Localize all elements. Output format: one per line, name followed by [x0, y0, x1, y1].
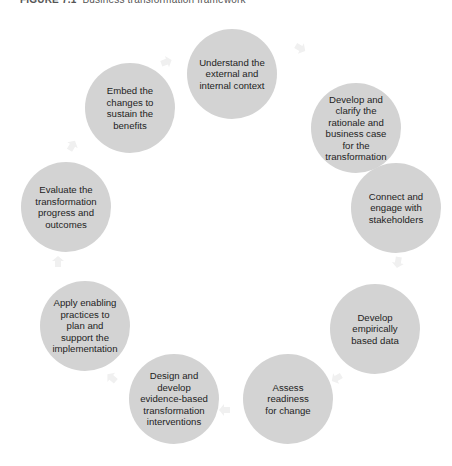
node-label: Embed the changes to sustain the benefit…: [107, 85, 154, 131]
node-label: Evaluate the transformation progress and…: [35, 184, 96, 230]
node-label: Connect and engage with stakeholders: [369, 191, 423, 226]
cycle-arrow-icon: [102, 368, 122, 388]
node-label: Assess readiness for change: [265, 382, 310, 417]
figure-number: FIGURE 7.1: [20, 0, 76, 5]
node-label: Design and develop evidence-based transf…: [140, 370, 208, 428]
figure-title: FIGURE 7.1Business transformation framew…: [20, 0, 246, 5]
cycle-arrow-icon: [157, 53, 175, 71]
node-develop-data: Develop empirically based data: [330, 284, 420, 374]
node-label: Develop and clarify the rationale and bu…: [325, 94, 386, 163]
node-label: Develop empirically based data: [351, 312, 398, 347]
node-embed-changes: Embed the changes to sustain the benefit…: [85, 63, 175, 153]
node-evaluate-progress: Evaluate the transformation progress and…: [21, 162, 111, 252]
node-develop-rationale: Develop and clarify the rationale and bu…: [311, 83, 401, 173]
cycle-arrow-icon: [390, 254, 406, 270]
node-assess-readiness: Assess readiness for change: [243, 354, 333, 444]
node-understand-context: Understand the external and internal con…: [187, 29, 277, 119]
cycle-arrow-icon: [290, 38, 309, 57]
cycle-arrow-icon: [62, 136, 81, 155]
node-apply-practices: Apply enabling practices to plan and sup…: [40, 281, 130, 371]
cycle-arrow-icon: [51, 255, 65, 269]
cycle-arrow-icon: [218, 403, 232, 417]
node-label: Understand the external and internal con…: [199, 57, 265, 92]
node-label: Apply enabling practices to plan and sup…: [52, 297, 117, 355]
node-connect-stakeholders: Connect and engage with stakeholders: [351, 163, 441, 253]
node-design-interventions: Design and develop evidence-based transf…: [129, 354, 219, 444]
figure-caption: Business transformation framework: [82, 0, 245, 5]
